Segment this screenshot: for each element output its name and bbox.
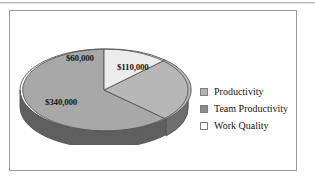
pie-3d-graphic: [14, 35, 194, 145]
chart-frame: $110,000 $340,000 $60,000 Productivity T…: [9, 10, 297, 171]
legend-item-productivity[interactable]: Productivity: [200, 84, 315, 99]
legend-item-work-quality[interactable]: Work Quality: [200, 118, 315, 133]
legend-label-productivity: Productivity: [214, 86, 263, 97]
pie-chart-screenshot: $110,000 $340,000 $60,000 Productivity T…: [0, 0, 315, 183]
pie-top-face: [23, 49, 192, 131]
plot-area: $110,000 $340,000 $60,000 Productivity T…: [10, 11, 296, 170]
slice-label-team-productivity: $340,000: [45, 97, 77, 107]
legend-swatch-icon-team-productivity: [200, 105, 208, 113]
slice-label-productivity: $110,000: [117, 62, 149, 72]
chart-legend: Productivity Team Productivity Work Qual…: [200, 84, 315, 135]
legend-swatch-icon-work-quality: [200, 122, 208, 130]
legend-swatch-icon-productivity: [200, 88, 208, 96]
slice-label-work-quality: $60,000: [66, 53, 94, 63]
legend-item-team-productivity[interactable]: Team Productivity: [200, 101, 315, 116]
top-rule-shadow: [0, 3, 315, 4]
legend-label-team-productivity: Team Productivity: [214, 103, 288, 114]
legend-label-work-quality: Work Quality: [214, 120, 268, 131]
